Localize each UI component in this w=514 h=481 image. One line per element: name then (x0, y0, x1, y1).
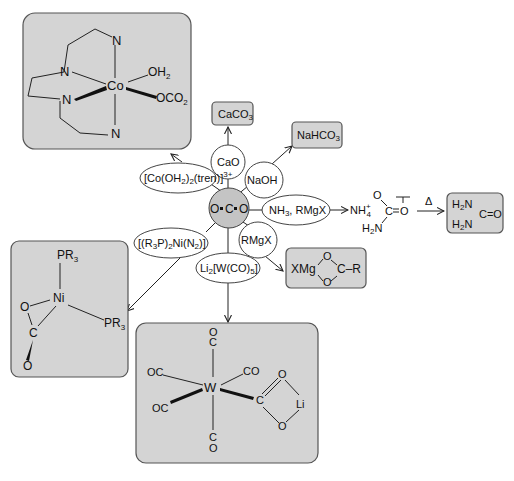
svg-text:Li: Li (296, 398, 305, 410)
svg-text:O: O (210, 202, 219, 216)
svg-text:C: C (29, 326, 38, 340)
svg-text:NaOH: NaOH (247, 174, 278, 186)
co2-reaction-diagram: N N N N Co OH2 OCO2 CaCO3 NaHCO3 CaO NaO… (0, 0, 514, 481)
co-n-mid: N (62, 92, 71, 107)
ammonium-carbamate: NH+4 O C O H2N (350, 189, 410, 236)
reagent-rmgx: RMgX (239, 222, 277, 258)
svg-text:OC: OC (152, 402, 169, 414)
caco3-box: CaCO3 (212, 102, 254, 125)
svg-text:C: C (256, 394, 264, 406)
grignard-carboxylate-box: XMg O O C–R (286, 248, 366, 288)
svg-text:C: C (209, 336, 217, 348)
svg-text:O: O (323, 276, 332, 288)
co-n-left: N (60, 64, 69, 79)
nickel-complex-box: PR3 Ni PR3 O C O (11, 241, 128, 377)
caco3-label: CaCO3 (218, 108, 254, 122)
svg-text:W: W (204, 380, 217, 395)
svg-text:OC: OC (147, 366, 164, 378)
reagent-nh3-rmgx: NH3, RMgX (262, 195, 330, 225)
urea-box: H2N H2N C=O (447, 193, 503, 233)
svg-text:H2N: H2N (362, 222, 382, 236)
svg-text:[Co(OH2)2(tren)]3+: [Co(OH2)2(tren)]3+ (144, 170, 233, 186)
svg-text:O: O (23, 359, 32, 373)
nahco3-box: NaHCO3 (292, 122, 342, 148)
svg-text:O: O (278, 420, 287, 432)
co-n-bottom: N (111, 126, 120, 141)
svg-text:C–R: C–R (337, 262, 361, 276)
heat-symbol: Δ (425, 195, 433, 207)
center-co2: O C O (209, 188, 249, 228)
co-n-top: N (112, 33, 121, 48)
svg-text:O: O (278, 368, 287, 380)
svg-text:NH3, RMgX: NH3, RMgX (269, 204, 327, 218)
tungsten-complex-box: O C W C O OC CO OC C O Li O (136, 323, 318, 463)
svg-text:XMg: XMg (291, 262, 316, 276)
cobalt-complex-box: N N N N Co OH2 OCO2 (23, 13, 191, 149)
svg-text:Ni: Ni (53, 291, 64, 305)
svg-text:O: O (323, 250, 332, 262)
svg-text:C: C (385, 205, 393, 217)
co-metal: Co (107, 78, 124, 93)
svg-text:NH+4: NH+4 (350, 202, 372, 219)
reagent-li2w: Li2[W(CO)5] (196, 253, 260, 283)
svg-text:O: O (373, 189, 382, 201)
svg-text:CaO: CaO (217, 156, 240, 168)
reagent-ni: [(R3P)2Ni(N2)] (134, 228, 208, 258)
svg-text:CO: CO (243, 365, 260, 377)
svg-text:O: O (400, 205, 409, 217)
svg-text:O: O (20, 300, 29, 314)
svg-text:C: C (225, 202, 234, 216)
nahco3-label: NaHCO3 (297, 129, 341, 143)
svg-text:RMgX: RMgX (241, 234, 272, 246)
svg-text:O: O (239, 202, 248, 216)
svg-text:O: O (209, 442, 218, 454)
svg-text:C=O: C=O (479, 208, 502, 220)
reagent-naoh: NaOH (245, 162, 283, 198)
